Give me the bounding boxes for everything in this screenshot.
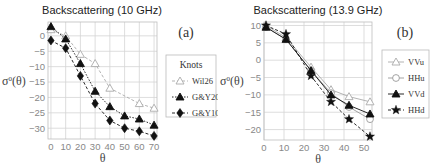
legend-label: HHd: [408, 105, 425, 115]
plot-frame: [264, 22, 372, 140]
data-point-marker: [135, 100, 143, 107]
panel-label: (b): [397, 25, 414, 41]
x-tick-label: 40: [105, 141, 116, 152]
legend-label: Wil26: [192, 76, 213, 86]
x-tick-label: 0: [48, 141, 53, 152]
x-axis-label: θ: [315, 152, 321, 166]
x-tick-label: 10: [60, 141, 71, 152]
series-hhu: [263, 24, 374, 123]
data-point-marker: [121, 124, 127, 133]
series-vvd: [262, 23, 374, 117]
y-tick-label: −15: [245, 107, 261, 118]
legend-label: VVu: [408, 57, 425, 67]
chart-panel-b: Backscattering (13.9 GHz)(b)010203040501…: [218, 0, 437, 168]
legend: VVuHHuVVdHHd: [382, 50, 429, 118]
y-tick-label: −25: [29, 107, 45, 118]
backscattering-10ghz-chart: Backscattering (10 GHz)(a)01020304050607…: [0, 0, 218, 168]
x-tick-label: 20: [299, 142, 310, 153]
x-tick-label: 10: [279, 142, 290, 153]
y-axis-ticks: 0−5−10−15−20−25−30: [29, 30, 45, 133]
y-tick-label: −10: [29, 61, 45, 72]
series-hhd: [261, 21, 374, 141]
data-point-marker: [91, 87, 99, 94]
backscattering-13-9ghz-chart: Backscattering (13.9 GHz)(b)010203040501…: [218, 0, 437, 168]
y-axis-ticks: 1050−5−10−15−20: [245, 20, 261, 135]
legend-label: HHu: [408, 73, 425, 83]
data-point-marker: [345, 93, 353, 100]
series-vvu: [262, 21, 374, 104]
y-tick-label: −30: [29, 123, 45, 134]
legend-marker-icon: [393, 75, 400, 82]
panel-label: (a): [178, 25, 194, 41]
y-tick-label: 5: [256, 37, 261, 48]
data-point-marker: [91, 60, 99, 67]
legend-label: G&Y10: [192, 108, 218, 118]
y-tick-label: 0: [40, 30, 45, 41]
y-axis-label: σ0(θ): [2, 74, 26, 88]
y-tick-label: −20: [245, 124, 261, 135]
data-point-marker: [76, 60, 84, 67]
legend: KnotsWil26G&Y20G&Y10: [166, 55, 218, 118]
data-point-marker: [48, 36, 54, 45]
y-tick-label: −15: [29, 76, 45, 87]
x-tick-label: 70: [149, 141, 160, 152]
y-axis-label: σ0(θ): [220, 74, 244, 88]
legend-label: VVd: [408, 89, 425, 99]
x-axis-label: θ: [100, 151, 106, 165]
legend-title: Knots: [180, 60, 203, 70]
x-tick-label: 0: [261, 142, 266, 153]
data-point-marker: [77, 71, 83, 80]
y-tick-label: 10: [250, 20, 261, 31]
y-tick-label: 0: [256, 54, 261, 65]
y-tick-label: −20: [29, 92, 45, 103]
data-point-marker: [366, 110, 374, 117]
y-tick-label: −10: [245, 89, 261, 100]
y-tick-label: −5: [250, 72, 261, 83]
chart-title: Backscattering (10 GHz): [42, 4, 162, 16]
x-tick-label: 50: [359, 142, 370, 153]
x-tick-label: 50: [119, 141, 130, 152]
data-point-marker: [106, 84, 114, 91]
data-point-marker: [107, 116, 113, 125]
x-tick-label: 40: [339, 142, 350, 153]
chart-title: Backscattering (13.9 GHz): [254, 4, 383, 16]
data-point-marker: [92, 99, 98, 108]
data-point-marker: [365, 132, 374, 141]
grid-lines: [264, 22, 372, 140]
y-tick-label: −5: [34, 46, 45, 57]
x-tick-label: 60: [134, 141, 145, 152]
legend-label: G&Y20: [192, 92, 218, 102]
x-tick-label: 20: [75, 141, 86, 152]
chart-panel-a: Backscattering (10 GHz)(a)01020304050607…: [0, 0, 218, 168]
